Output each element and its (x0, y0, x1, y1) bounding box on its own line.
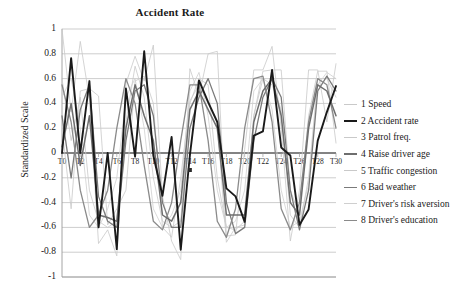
legend-item-3[interactable]: 3 Patrol freq. (344, 129, 450, 146)
legend-item-1[interactable]: 1 Speed (344, 96, 450, 113)
data-point-marker (188, 168, 192, 172)
legend-line-swatch (344, 170, 357, 171)
legend-line-swatch (344, 203, 357, 204)
legend-item-label: 6 Bad weather (361, 182, 416, 192)
gridlines (62, 29, 336, 277)
legend-item-label: 2 Accident rate (361, 116, 419, 126)
legend-line-swatch (344, 187, 357, 188)
legend-item-label: 8 Driver's education (361, 215, 438, 225)
legend-line-swatch (344, 104, 357, 105)
legend-item-label: 5 Traffic congestion (361, 166, 437, 176)
series-line (62, 51, 336, 249)
legend-item-2[interactable]: 2 Accident rate (344, 113, 450, 130)
legend-item-5[interactable]: 5 Traffic congestion (344, 162, 450, 179)
legend-item-label: 4 Raise driver age (361, 149, 430, 159)
legend-item-label: 7 Driver's risk aversion (361, 199, 450, 209)
legend-line-swatch (344, 137, 357, 138)
legend-item-6[interactable]: 6 Bad weather (344, 179, 450, 196)
legend-line-swatch (344, 220, 357, 221)
legend-line-swatch (344, 153, 357, 155)
legend: 1 Speed2 Accident rate3 Patrol freq.4 Ra… (344, 96, 450, 229)
series-lines (62, 29, 336, 260)
legend-item-label: 3 Patrol freq. (361, 132, 411, 142)
legend-item-7[interactable]: 7 Driver's risk aversion (344, 196, 450, 213)
series-line (62, 79, 336, 222)
legend-item-8[interactable]: 8 Driver's education (344, 212, 450, 229)
legend-item-label: 1 Speed (361, 99, 391, 109)
chart-page: Accident Rate Standardized Scale 10.80.6… (0, 0, 468, 305)
series-line (62, 29, 336, 260)
legend-line-swatch (344, 120, 357, 122)
legend-item-4[interactable]: 4 Raise driver age (344, 146, 450, 163)
